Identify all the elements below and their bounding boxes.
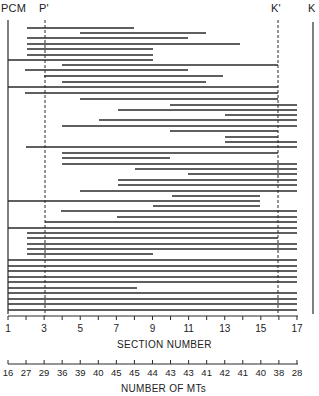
mt-tick-label: 44 — [147, 367, 158, 378]
section-tick-label: 13 — [219, 323, 230, 334]
mt-tick-label: 40 — [256, 367, 267, 378]
mt-axis-title: NUMBER OF MTs — [121, 383, 206, 394]
mt-segment-diagram: PCM P' K' K 1357911131517 SECTION NUMBER… — [0, 0, 319, 396]
mt-tick-label: 28 — [292, 367, 303, 378]
microtubule-segments — [8, 28, 297, 310]
section-tick-label: 5 — [77, 323, 83, 334]
mt-tick-label: 41 — [201, 367, 212, 378]
section-tick-label: 3 — [41, 323, 47, 334]
mt-tick-label: 38 — [274, 367, 285, 378]
k-label: K — [308, 2, 316, 14]
mt-tick-label: 43 — [165, 367, 176, 378]
mt-tick-label: 43 — [183, 367, 194, 378]
pcm-label: PCM — [1, 2, 26, 14]
diagram-canvas — [0, 0, 319, 396]
mt-tick-label: 40 — [93, 367, 104, 378]
mt-tick-label: 42 — [219, 367, 230, 378]
mt-tick-label: 45 — [111, 367, 122, 378]
mt-tick-label: 16 — [3, 367, 14, 378]
k-prime-label: K' — [271, 2, 281, 14]
mt-tick-label: 36 — [57, 367, 68, 378]
mt-tick-label: 27 — [21, 367, 32, 378]
section-axis-title: SECTION NUMBER — [117, 339, 212, 350]
mt-tick-label: 39 — [75, 367, 86, 378]
section-tick-label: 17 — [291, 323, 302, 334]
section-tick-label: 9 — [150, 323, 156, 334]
mt-tick-label: 41 — [237, 367, 248, 378]
section-tick-label: 15 — [255, 323, 266, 334]
p-prime-label: P' — [39, 2, 49, 14]
mt-tick-label: 29 — [39, 367, 50, 378]
mt-tick-label: 45 — [129, 367, 140, 378]
section-tick-label: 1 — [5, 323, 11, 334]
section-tick-label: 7 — [114, 323, 120, 334]
section-tick-label: 11 — [183, 323, 193, 334]
